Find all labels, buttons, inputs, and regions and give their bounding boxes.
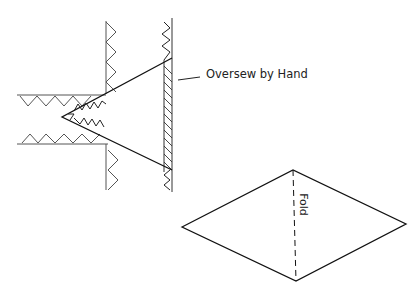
hatch-marks <box>164 66 172 170</box>
oversew-label: Oversew by Hand <box>206 67 308 81</box>
fold-label: Fold <box>297 193 310 216</box>
sewing-diagram <box>0 0 419 299</box>
seam-joint <box>17 18 200 192</box>
fold-diamond <box>182 170 406 281</box>
